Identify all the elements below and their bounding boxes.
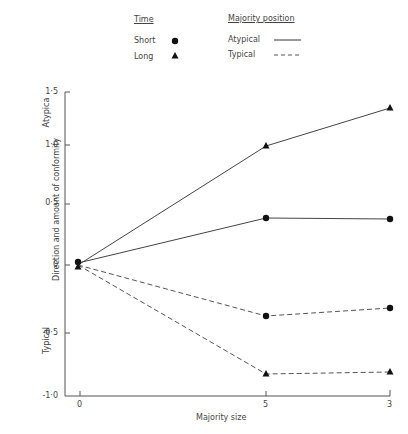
point-circle-icon: [263, 215, 269, 221]
series-long-typical: [78, 265, 390, 374]
series-long-atypical: [78, 108, 390, 265]
point-triangle-icon: [263, 370, 270, 377]
x-ticks: [80, 390, 390, 396]
chart-canvas: [0, 0, 408, 434]
series-short-atypical: [78, 218, 390, 263]
series-short-typical: [78, 265, 390, 316]
point-triangle-icon: [387, 104, 394, 111]
legend-triangle-icon: [172, 52, 179, 59]
markers: [75, 104, 394, 377]
point-circle-icon: [263, 313, 269, 319]
y-ticks: [65, 92, 70, 333]
point-circle-icon: [387, 305, 393, 311]
point-circle-icon: [387, 216, 393, 222]
legend-circle-icon: [172, 38, 178, 44]
point-triangle-icon: [387, 368, 394, 375]
